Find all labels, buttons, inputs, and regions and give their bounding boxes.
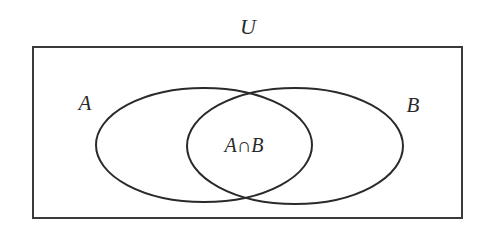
venn-diagram: U A B A∩B: [0, 0, 484, 230]
set-b-ellipse: [187, 88, 403, 204]
set-a-ellipse: [96, 88, 312, 202]
set-b-label: B: [407, 93, 420, 117]
intersection-label: A∩B: [223, 134, 264, 156]
universe-label: U: [240, 14, 258, 39]
universe-rectangle: [33, 47, 462, 218]
set-a-label: A: [77, 91, 92, 115]
